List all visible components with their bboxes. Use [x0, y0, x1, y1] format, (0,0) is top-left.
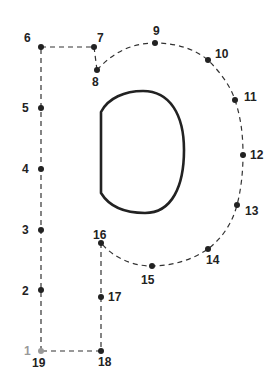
dot-label-2: 2	[22, 284, 29, 298]
dot-label-14: 14	[206, 253, 220, 267]
dot-8	[94, 67, 100, 73]
dot-label-9: 9	[153, 24, 160, 38]
dot-5	[38, 105, 44, 111]
dot-6	[38, 44, 44, 50]
dot-2	[38, 287, 44, 293]
dot-label-18: 18	[98, 355, 112, 369]
dot-15	[149, 263, 155, 269]
dot-3	[38, 227, 44, 233]
dot-label-4: 4	[22, 162, 29, 176]
dot-13	[234, 202, 240, 208]
dot-label-7: 7	[97, 31, 104, 45]
dot-label-13: 13	[245, 204, 259, 218]
dot-label-3: 3	[22, 223, 29, 237]
dot-label-1: 1	[24, 344, 31, 358]
dot-17	[98, 294, 104, 300]
dot-1	[38, 348, 44, 354]
dot-label-19: 19	[32, 356, 46, 370]
inner-bowl-shape	[101, 91, 184, 213]
dot-label-10: 10	[215, 47, 229, 61]
connect-the-dots-canvas: 12345678910111213141516171819	[0, 0, 276, 392]
dot-10	[205, 57, 211, 63]
dot-label-8: 8	[92, 75, 99, 89]
dot-label-15: 15	[141, 273, 155, 287]
labels-layer: 12345678910111213141516171819	[22, 24, 264, 370]
dot-label-11: 11	[244, 90, 257, 104]
dot-11	[232, 97, 238, 103]
dot-14	[205, 246, 211, 252]
dot-label-16: 16	[93, 228, 107, 242]
dot-4	[38, 166, 44, 172]
dot-label-17: 17	[108, 290, 122, 304]
dot-label-6: 6	[24, 31, 31, 45]
dots-layer	[38, 40, 246, 354]
dot-18	[98, 348, 104, 354]
dot-label-5: 5	[22, 101, 29, 115]
dot-9	[152, 40, 158, 46]
dashed-outline	[41, 43, 243, 351]
dot-label-12: 12	[250, 148, 264, 162]
dot-12	[240, 152, 246, 158]
